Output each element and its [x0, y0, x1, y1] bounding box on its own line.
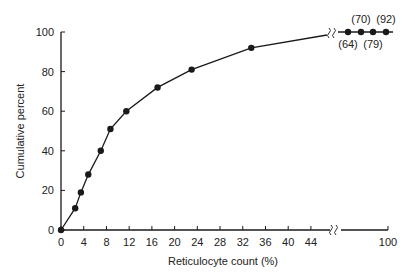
x-tick-label: 44	[305, 236, 317, 248]
y-tick-label: 0	[48, 224, 54, 236]
data-point-beyond-break	[370, 29, 376, 35]
y-tick-label: 20	[42, 184, 54, 196]
x-tick-label: 28	[214, 236, 226, 248]
x-tick-label: 20	[168, 236, 180, 248]
data-line	[61, 35, 327, 230]
x-axis-label: Reticulocyte count (%)	[168, 255, 278, 267]
data-point	[107, 126, 113, 132]
y-tick-label: 80	[42, 66, 54, 78]
x-tick-label: 100	[379, 236, 397, 248]
data-point-annotation: (79)	[363, 38, 383, 50]
y-axis-label: Cumulative percent	[14, 84, 26, 179]
y-tick-label: 100	[36, 26, 54, 38]
x-tick-label: 8	[103, 236, 109, 248]
y-tick-label: 40	[42, 145, 54, 157]
data-point	[98, 148, 104, 154]
curve-break-icon	[328, 28, 336, 38]
data-point	[248, 45, 254, 51]
x-tick-label: 16	[146, 236, 158, 248]
data-point	[58, 227, 64, 233]
data-point	[123, 108, 129, 114]
x-tick-label: 12	[123, 236, 135, 248]
data-point	[85, 171, 91, 177]
data-point-beyond-break	[358, 29, 364, 35]
data-point	[72, 205, 78, 211]
x-axis-break-icon	[330, 225, 338, 235]
x-tick-label: 0	[58, 236, 64, 248]
chart-canvas: 020406080100048121620242832364044100Reti…	[0, 0, 415, 275]
data-point-annotation: (92)	[376, 13, 396, 25]
x-tick-label: 4	[81, 236, 87, 248]
x-tick-label: 40	[282, 236, 294, 248]
data-point-beyond-break	[345, 29, 351, 35]
data-point	[188, 66, 194, 72]
y-tick-label: 60	[42, 105, 54, 117]
data-point-annotation: (70)	[351, 13, 371, 25]
data-point	[154, 84, 160, 90]
x-tick-label: 32	[237, 236, 249, 248]
data-point-annotation: (64)	[338, 38, 358, 50]
data-point-beyond-break	[383, 29, 389, 35]
x-tick-label: 36	[259, 236, 271, 248]
x-tick-label: 24	[191, 236, 203, 248]
data-point	[78, 189, 84, 195]
